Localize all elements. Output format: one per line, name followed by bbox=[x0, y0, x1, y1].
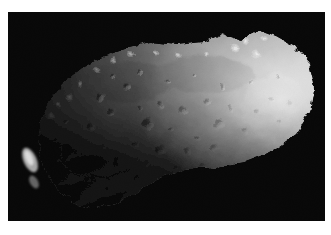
asteroid-photograph bbox=[8, 12, 325, 221]
page-margin-right bbox=[325, 0, 331, 235]
asteroid-image-canvas bbox=[8, 12, 325, 221]
film-grain bbox=[8, 12, 325, 221]
page-margin-bottom bbox=[0, 221, 331, 235]
page-margin-left bbox=[0, 0, 8, 235]
page-margin-top bbox=[0, 0, 331, 12]
photo-page bbox=[0, 0, 331, 235]
